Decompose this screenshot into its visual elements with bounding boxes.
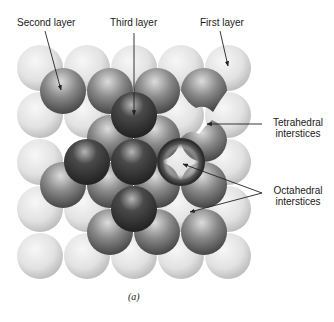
tetrahedral-label-line1: Tetrahedral bbox=[265, 117, 331, 128]
tetrahedral-label-line2: interstices bbox=[265, 128, 331, 139]
tetrahedral-interstices-label: Tetrahedral interstices bbox=[265, 117, 331, 139]
third-layer-label: Third layer bbox=[110, 17, 157, 28]
second-layer-label: Second layer bbox=[17, 17, 75, 28]
figure-caption: (a) bbox=[128, 291, 140, 302]
octahedral-label-line2: interstices bbox=[265, 196, 331, 207]
close-packed-layers-diagram bbox=[0, 0, 334, 322]
octahedral-interstices-label: Octahedral interstices bbox=[265, 185, 331, 207]
octahedral-label-line1: Octahedral bbox=[265, 185, 331, 196]
first-layer-label: First layer bbox=[200, 17, 244, 28]
